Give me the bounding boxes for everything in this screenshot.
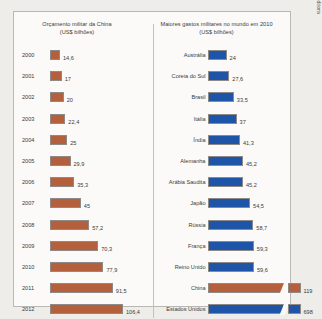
table-row: 200635,3 [14,173,140,194]
chart-left-title-text: Orçamento militar da China [42,21,111,27]
row-category-label: Estados Unidos [166,306,205,312]
table-row: 200425 [14,131,140,152]
bar [208,50,227,60]
bar-value-label: 106,4 [126,309,140,315]
bar [208,135,240,145]
row-category-label: Coreia do Sul [172,73,206,79]
row-category-label: 2001 [22,73,34,79]
row-category-label: 2006 [22,179,34,185]
row-category-label: Reino Unido [175,264,206,270]
table-row: Rússia58,7 [141,216,292,237]
bar [50,304,123,314]
bar-value-label: 22,4 [68,119,79,125]
bar [50,241,98,251]
table-row: 200220 [14,88,140,109]
chart-left-rows: 200014,6200117200220200322,4200425200529… [14,46,140,319]
bar-value-label: 45,2 [246,161,257,167]
table-row: 200970,3 [14,237,140,258]
bar-value-label: 25 [70,140,76,146]
table-row: 201077,9 [14,258,140,279]
table-row: França59,3 [141,237,292,258]
table-row: Estados Unidos698 [141,300,292,319]
bar-value-label: 17 [65,76,71,82]
table-row: China119 [141,279,292,300]
row-category-label: França [188,243,205,249]
bar-value-label: 59,6 [257,267,268,273]
table-row: 200745 [14,194,140,215]
table-row: Arábia Saudita45,2 [141,173,292,194]
table-row: 2012106,4 [14,300,140,319]
image-credit: Allmaps/Arquivo da editora [316,0,322,14]
row-category-label: 2007 [22,200,34,206]
table-row: Itália37 [141,110,292,131]
bar [50,92,64,102]
chart-right-subtitle-text: (US$ bilhões) [141,28,292,36]
bar-value-label: 45 [84,203,90,209]
row-category-label: 2011 [22,285,34,291]
bar-value-label: 24 [230,55,236,61]
row-category-label: 2002 [22,94,34,100]
bar-value-label: 59,3 [257,246,268,252]
bar [208,156,243,166]
bar-value-label: 91,5 [116,288,127,294]
bar [50,262,103,272]
row-category-label: Austrália [184,52,206,58]
chart-right-rows: Austrália24Coreia do Sul27,6Brasil33,5It… [141,46,292,319]
bar [50,283,113,293]
table-row: Austrália24 [141,46,292,67]
row-category-label: Rússia [188,222,205,228]
bar-value-label: 58,7 [256,225,267,231]
bar-value-label: 70,3 [101,246,112,252]
table-row: 200857,2 [14,216,140,237]
bar-segment-outlier [288,304,301,314]
bar [208,220,253,230]
row-category-label: Alemanha [180,158,205,164]
bar [208,241,254,251]
table-row: 200117 [14,67,140,88]
bar [208,262,254,272]
row-category-label: Índia [193,137,205,143]
row-category-label: 2003 [22,116,34,122]
table-row: Japão54,5 [141,194,292,215]
bar [50,198,81,208]
table-row: Brasil33,5 [141,88,292,109]
bar-value-label: 20 [67,97,73,103]
bar [50,114,65,124]
chart-panel: Orçamento militar da China (US$ bilhões)… [13,11,291,307]
table-row: Alemanha45,2 [141,152,292,173]
row-category-label: 2010 [22,264,34,270]
bar-value-label: 698 [304,309,313,315]
table-row: Reino Unido59,6 [141,258,292,279]
bar [50,220,89,230]
row-category-label: Arábia Saudita [169,179,206,185]
row-category-label: 2008 [22,222,34,228]
bar [208,92,234,102]
row-category-label: 2012 [22,306,34,312]
bar [208,198,250,208]
row-category-label: 2005 [22,158,34,164]
row-category-label: 2009 [22,243,34,249]
table-row: 200014,6 [14,46,140,67]
bar-value-label: 57,2 [92,225,103,231]
bar-value-label: 35,3 [77,182,88,188]
bar-value-label: 119 [304,288,313,294]
bar-value-label: 54,5 [253,203,264,209]
bar-value-label: 33,5 [237,97,248,103]
chart-right-title-text: Maiores gastos militares no mundo em 201… [160,21,272,27]
row-category-label: 2000 [22,52,34,58]
table-row: 200322,4 [14,110,140,131]
bar [208,304,284,314]
bar-value-label: 27,6 [232,76,243,82]
bar [208,283,284,293]
bar [208,114,237,124]
chart-left-subtitle-text: (US$ bilhões) [14,28,140,36]
bar-value-label: 77,9 [106,267,117,273]
row-category-label: Japão [190,200,205,206]
bar-value-label: 14,6 [63,55,74,61]
bar-value-label: 37 [240,119,246,125]
table-row: 201191,5 [14,279,140,300]
row-category-label: Itália [194,116,206,122]
bar-segment-outlier [288,283,301,293]
bar-value-label: 41,3 [243,140,254,146]
table-row: Índia41,3 [141,131,292,152]
